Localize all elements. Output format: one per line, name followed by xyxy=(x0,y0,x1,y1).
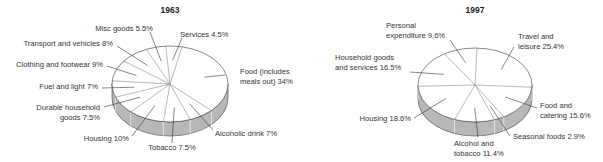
slice-label: Alcohol andtobacco 11.4% xyxy=(454,139,504,158)
slice-label: Alcoholic drink 7% xyxy=(215,129,277,138)
slice-label: Tobacco 7.5% xyxy=(148,143,196,152)
pie-charts: 1963Food (includesmeals out) 34%Alcoholi… xyxy=(0,0,603,162)
slice-label: Clothing and footwear 9% xyxy=(16,60,103,69)
slice-label: Transport and vehicles 8% xyxy=(23,39,113,48)
slice-label: Housing 10% xyxy=(84,134,129,143)
pie-chart-1963: 1963Food (includesmeals out) 34%Alcoholi… xyxy=(16,5,293,152)
slice-label: Personalexpenditure 9.6% xyxy=(386,21,445,40)
slice-label: Misc goods 5.5% xyxy=(95,24,153,33)
slice-label: Household goodsand services 16.5% xyxy=(335,53,402,72)
slice-label: Housing 18.6% xyxy=(359,114,411,123)
slice-label: Services 4.5% xyxy=(180,30,229,39)
slice-label: Food (includesmeals out) 34% xyxy=(240,67,293,86)
slice-label: Food andcatering 15.6% xyxy=(540,101,591,120)
slice-label: Seasonal foods 2.9% xyxy=(513,132,585,141)
slice-label: Travel andleisure 25.4% xyxy=(518,32,564,51)
pie-chart-1997: 1997Travel andleisure 25.4%Food andcater… xyxy=(335,5,591,158)
chart-title: 1963 xyxy=(161,5,180,15)
slice-label: Durable householdgoods 7.5% xyxy=(36,103,100,122)
chart-title: 1997 xyxy=(466,5,485,15)
slice-label: Fuel and light 7% xyxy=(39,82,98,91)
